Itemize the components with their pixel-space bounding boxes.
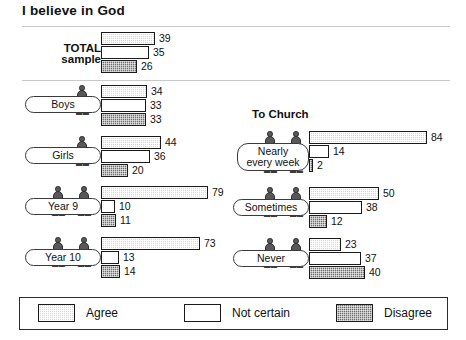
bar-boys-notcertain xyxy=(101,99,146,112)
value-girls-disagree: 20 xyxy=(132,164,144,177)
legend-label-agree: Agree xyxy=(86,306,118,320)
value-year9-disagree: 11 xyxy=(120,214,131,227)
group-label-never: Never xyxy=(233,250,309,267)
value-boys-notcertain: 33 xyxy=(150,99,162,112)
bar-total-agree xyxy=(101,32,155,45)
bar-total-notcertain xyxy=(101,46,149,59)
bar-sometimes-notcertain xyxy=(309,201,362,214)
legend-item-notcertain: Not certain xyxy=(184,304,290,322)
group-label-boys: Boys xyxy=(25,96,101,113)
value-boys-disagree: 33 xyxy=(150,113,162,126)
group-label-girls: Girls xyxy=(25,147,101,164)
legend-swatch-notcertain xyxy=(184,304,221,322)
bar-year9-agree xyxy=(101,186,208,199)
group-label-total-line2: sample xyxy=(61,54,101,65)
chart-page: I believe in God To Church TOTAL sample … xyxy=(0,0,466,340)
value-boys-agree: 34 xyxy=(151,85,163,98)
bar-girls-disagree xyxy=(101,164,128,177)
value-never-agree: 23 xyxy=(345,238,357,251)
divider-top xyxy=(22,26,450,27)
page-title: I believe in God xyxy=(22,3,125,18)
group-label-never-text: Never xyxy=(257,253,285,264)
bar-year10-agree xyxy=(101,237,200,250)
bar-never-agree xyxy=(309,238,341,251)
bar-girls-agree xyxy=(101,136,161,149)
value-year9-agree: 79 xyxy=(212,186,224,199)
legend-swatch-agree xyxy=(38,304,75,322)
value-sometimes-notcertain: 38 xyxy=(366,201,378,214)
group-label-year10: Year 10 xyxy=(25,249,101,266)
value-never-disagree: 40 xyxy=(369,266,381,279)
bar-year10-notcertain xyxy=(101,251,119,264)
group-label-year9-text: Year 9 xyxy=(48,201,78,212)
value-total-disagree: 26 xyxy=(141,60,153,73)
group-label-sometimes-text: Sometimes xyxy=(245,202,298,213)
value-nearly-notcertain: 14 xyxy=(333,145,345,158)
bar-nearly-disagree xyxy=(309,159,313,172)
value-total-notcertain: 35 xyxy=(153,46,165,59)
value-year10-disagree: 14 xyxy=(124,265,136,278)
section-heading-to-church: To Church xyxy=(252,108,309,120)
group-label-nearly-line2: every week xyxy=(246,157,299,168)
group-label-year9: Year 9 xyxy=(25,198,101,215)
group-label-nearly: Nearly every week xyxy=(237,143,309,171)
bar-year10-disagree xyxy=(101,265,120,278)
legend: Agree Not certain Disagree xyxy=(19,297,448,330)
value-year9-notcertain: 10 xyxy=(119,200,131,213)
group-label-boys-text: Boys xyxy=(51,99,74,110)
bar-girls-notcertain xyxy=(101,150,150,163)
legend-label-disagree: Disagree xyxy=(384,306,432,320)
value-year10-notcertain: 13 xyxy=(123,251,135,264)
value-nearly-disagree: 2 xyxy=(317,159,323,172)
bar-total-disagree xyxy=(101,60,137,73)
legend-item-agree: Agree xyxy=(38,304,118,322)
bar-nearly-agree xyxy=(309,131,427,144)
bar-sometimes-agree xyxy=(309,187,379,200)
legend-swatch-disagree xyxy=(336,304,373,322)
bar-nearly-notcertain xyxy=(309,145,329,158)
bar-sometimes-disagree xyxy=(309,215,327,228)
bar-never-disagree xyxy=(309,266,365,279)
value-nearly-agree: 84 xyxy=(431,131,443,144)
divider-total xyxy=(22,80,450,81)
bar-year9-notcertain xyxy=(101,200,115,213)
value-total-agree: 39 xyxy=(159,32,171,45)
value-year10-agree: 73 xyxy=(204,237,216,250)
value-sometimes-disagree: 12 xyxy=(331,215,343,228)
bar-boys-disagree xyxy=(101,113,146,126)
group-label-girls-text: Girls xyxy=(52,150,74,161)
bar-boys-agree xyxy=(101,85,147,98)
group-label-year10-text: Year 10 xyxy=(45,252,81,263)
legend-item-disagree: Disagree xyxy=(336,304,432,322)
value-girls-agree: 44 xyxy=(165,136,177,149)
group-label-total: TOTAL sample xyxy=(57,40,101,68)
value-sometimes-agree: 50 xyxy=(383,187,395,200)
bar-year9-disagree xyxy=(101,214,116,227)
value-never-notcertain: 37 xyxy=(365,252,377,265)
legend-label-notcertain: Not certain xyxy=(232,306,290,320)
group-label-sometimes: Sometimes xyxy=(233,199,309,216)
value-girls-notcertain: 36 xyxy=(154,150,166,163)
bar-never-notcertain xyxy=(309,252,361,265)
